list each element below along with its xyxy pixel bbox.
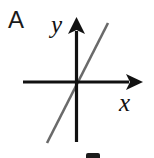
x-axis-label: x xyxy=(119,90,130,115)
y-axis-label: y xyxy=(51,12,62,37)
figure-panel-a: A y x xyxy=(0,0,154,158)
cropped-next-panel-artifact xyxy=(86,153,100,158)
panel-label: A xyxy=(8,8,24,32)
